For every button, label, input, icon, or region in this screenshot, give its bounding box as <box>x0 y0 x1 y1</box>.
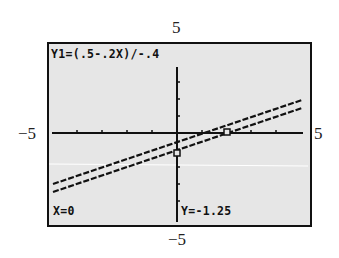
y-readout: Y=-1.25 <box>181 204 232 218</box>
equation-text: Y1=(.5-.2X)/-.4 <box>51 47 159 61</box>
x-readout: X=0 <box>53 204 75 218</box>
intercept-marker <box>224 129 230 135</box>
graph-plot <box>0 0 339 258</box>
trace-cursor <box>174 150 180 156</box>
scan-artifact <box>49 164 308 166</box>
